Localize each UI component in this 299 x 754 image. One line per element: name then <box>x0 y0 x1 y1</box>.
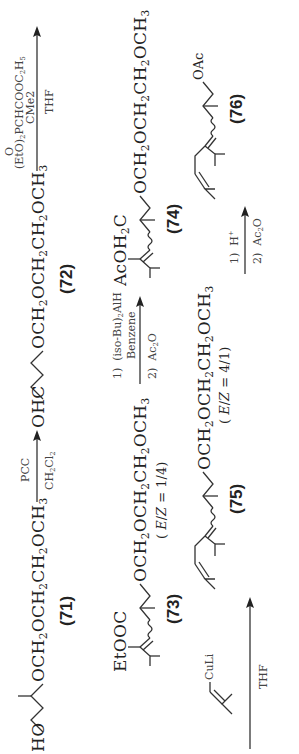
compound-76-isopropyl-a <box>205 146 215 166</box>
compound-71-ho: HO <box>30 723 47 752</box>
compound-76-ch2 <box>195 146 205 174</box>
compound-72-ohc: OHC <box>30 385 47 428</box>
compound-75-double-b <box>208 528 216 538</box>
compound-75-prenyl-tail <box>205 579 215 589</box>
compound-73-isopropyl-a <box>140 647 150 666</box>
compound-75-wavy-bond <box>211 508 215 526</box>
compound-73-chain <box>140 584 150 620</box>
compound-74-wavy-bond <box>148 232 152 250</box>
arrow-3-step1: 1) (iso-Bu)2AlH <box>112 292 125 379</box>
compound-75-double-a <box>205 526 213 536</box>
compound-75-ratio: ( E/Z = 4/1) <box>218 347 231 424</box>
arrow-2-solvent: THF <box>44 89 55 114</box>
compound-73-etooc: EtOOC <box>112 610 129 672</box>
compound-76-wavy-bond <box>211 118 215 136</box>
compound-75-isopropyl-a <box>205 536 215 556</box>
compound-75-chain: OCH2OCH2CH2OCH3 <box>196 285 214 470</box>
compound-76-label: (76) <box>228 94 245 124</box>
arrow-4-solvent: THF <box>258 664 269 689</box>
compound-74-acoh2c: AcOH2C <box>112 214 130 286</box>
compound-74-chain <box>140 196 150 232</box>
compound-76-prenyl-tail <box>205 189 215 199</box>
arrow-5-step1: 1) H+ <box>228 231 240 264</box>
arrow-1-reagent: PCC <box>20 458 31 482</box>
compound-73-wavy-bond <box>148 620 152 638</box>
arrow-5-step2: 2) Ac2O <box>252 218 265 264</box>
compound-75-ch2 <box>195 536 205 564</box>
compound-76-double-a <box>205 136 213 146</box>
compound-76-prenyl-double-b <box>199 172 209 187</box>
arrow-4-reagent: CuLi <box>204 654 215 680</box>
compound-72-label: (72) <box>58 264 75 294</box>
compound-71-label: (71) <box>58 596 75 626</box>
compound-76-oac: OAc <box>192 53 205 80</box>
compound-71-chain: OCH2OCH2CH2OCH3 <box>30 497 48 682</box>
arrow-1-solvent: CH2Cl2 <box>44 451 57 490</box>
compound-74-isopropyl-a <box>140 259 150 278</box>
compound-76-prenyl-double-a <box>195 174 205 189</box>
compound-76-chain <box>203 82 213 118</box>
arrow-3-solvent: Benzene <box>126 311 137 359</box>
cuprate-prenyl-a <box>222 694 232 714</box>
compound-74-chain: OCH2OCH2CH2OCH3 <box>132 9 150 194</box>
compound-75-prenyl-double-a <box>195 564 205 579</box>
compound-76-double-b <box>208 138 216 148</box>
compound-72-chain: OCH2OCH2CH2OCH3 <box>30 164 48 349</box>
compound-75-label: (75) <box>228 484 245 514</box>
reaction-scheme: HO OCH2OCH2CH2OCH3 (71) PCC CH2Cl2 OHC O… <box>0 0 299 754</box>
compound-75-prenyl-double-b <box>199 562 209 577</box>
compound-73-chain: OCH2OCH2CH2OCH3 <box>132 397 150 582</box>
arrow-2-reagent-sub: CMe2 <box>25 91 36 124</box>
cuprate-double-bond-a <box>210 692 222 704</box>
compound-73-label: (73) <box>165 594 182 624</box>
compound-75-chain <box>203 472 213 508</box>
cuprate-double-bond-b <box>214 690 225 701</box>
compound-73-ratio: ( E/Z = 1/4) <box>155 462 168 539</box>
arrow-3-step2: 2) Ac2O <box>147 333 160 379</box>
compound-74-label: (74) <box>165 204 182 234</box>
